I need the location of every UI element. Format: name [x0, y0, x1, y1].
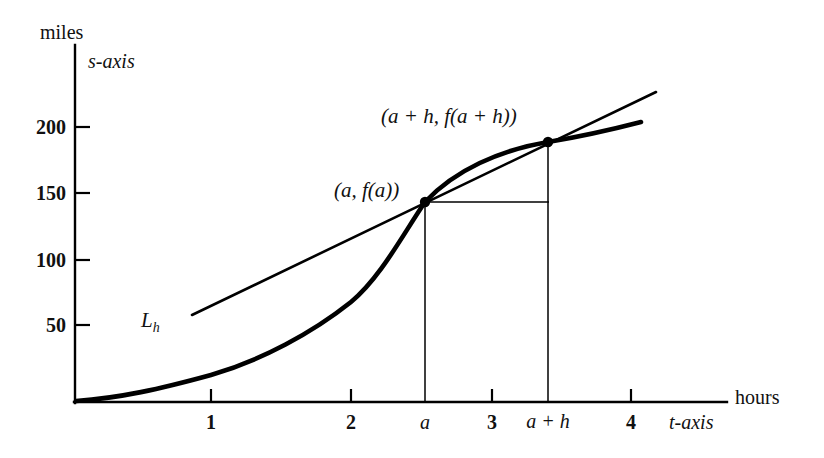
point-a-plus-h-marker [543, 137, 553, 147]
x-tick-marks [211, 389, 631, 402]
x-axis-unit-caption: hours [735, 387, 779, 407]
secant-line-label-subscript: h [153, 320, 160, 335]
x-axis-name-label: t-axis [669, 412, 713, 432]
y-tick-marks [75, 127, 90, 325]
x-tick-label-2: 2 [331, 412, 371, 432]
y-axis-unit-caption: miles [40, 22, 83, 42]
point-a-plus-h-annotation: (a + h, f(a + h)) [381, 106, 517, 127]
x-tick-label-3: 3 [472, 412, 512, 432]
x-tick-label-a: a [405, 412, 445, 432]
y-tick-label-150: 150 [6, 183, 66, 203]
y-tick-label-200: 200 [6, 117, 66, 137]
secant-line-label: Lh [141, 310, 160, 335]
y-tick-label-100: 100 [6, 250, 66, 270]
x-tick-label-4: 4 [611, 412, 651, 432]
x-tick-label-a-plus-h: a + h [508, 411, 588, 431]
secant-line-label-base: L [141, 308, 153, 332]
guide-lines-group [425, 142, 549, 402]
x-axis-name-text: t-axis [669, 411, 713, 433]
point-a-annotation: (a, f(a)) [334, 180, 399, 201]
axes-group [74, 45, 727, 403]
figure-root: miles s-axis hours t-axis 200 150 100 50… [0, 0, 824, 458]
x-tick-label-1: 1 [191, 412, 231, 432]
y-axis-name-label: s-axis [88, 51, 135, 71]
point-a-marker [420, 197, 430, 207]
y-axis-name-text: s-axis [88, 50, 135, 72]
position-curve [76, 122, 641, 401]
y-tick-label-50: 50 [6, 315, 66, 335]
